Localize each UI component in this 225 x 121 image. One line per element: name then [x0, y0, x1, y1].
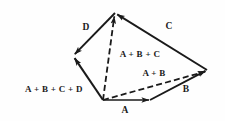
- vector-D-line: [75, 13, 115, 54]
- vector-A-plus-B-plus-C-line: [103, 16, 114, 100]
- vector-label-C: C: [166, 22, 173, 32]
- vector-label-A-plus-B: A + B: [142, 69, 165, 78]
- vector-label-D: D: [83, 23, 90, 33]
- vector-C-line: [117, 14, 207, 70]
- vector-label-A: A: [122, 106, 129, 116]
- vector-label-A-plus-B-plus-C: A + B + C: [120, 50, 160, 59]
- vector-label-B: B: [183, 85, 189, 95]
- vector-A-plus-B-plus-C-plus-D-line: [75, 58, 103, 100]
- vector-label-A-plus-B-plus-C-plus-D: A + B + C + D: [25, 85, 83, 94]
- vector-diagram-canvas: [0, 0, 225, 121]
- vector-diagram-figure: A B C D A + B A + B + C A + B + C + D: [0, 0, 225, 121]
